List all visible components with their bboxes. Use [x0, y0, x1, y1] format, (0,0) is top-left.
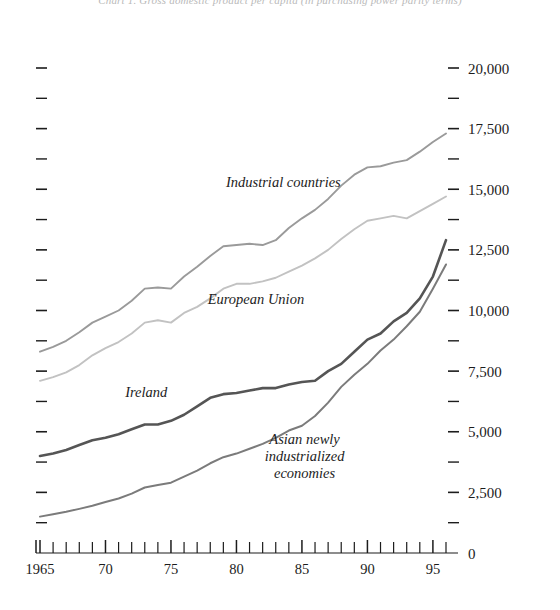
right-axis-tick-label: 15,000: [468, 182, 509, 198]
right-axis-tick-labels: 2,5005,0007,50010,00012,50015,00017,5002…: [468, 61, 509, 501]
chart-canvas: 2,5005,0007,50010,00012,50015,00017,5002…: [0, 0, 560, 610]
series-line-0: [40, 133, 446, 351]
x-axis-tick-label: 1965: [26, 561, 55, 577]
series-line-1: [40, 197, 446, 381]
series-label-2: Ireland: [124, 384, 168, 400]
right-axis-tick-label: 10,000: [468, 303, 509, 319]
right-axis-tick-label: 20,000: [468, 61, 509, 77]
right-axis-tick-label: 5,000: [468, 424, 502, 440]
series-label-3: industrialized: [265, 448, 346, 464]
zero-axis-label: 0: [468, 546, 476, 562]
series-line-2: [40, 240, 446, 456]
x-axis-tick-label: 85: [295, 561, 310, 577]
bottom-axis-tick-labels: 1965707580859095: [26, 561, 441, 577]
x-axis-tick-label: 80: [229, 561, 244, 577]
x-axis-tick-label: 75: [164, 561, 179, 577]
x-axis-tick-label: 90: [360, 561, 375, 577]
right-axis-tick-label: 12,500: [468, 242, 509, 258]
chart-root: Chart 1. Gross domestic product per capi…: [0, 0, 560, 610]
series-label-3: Asian newly: [268, 431, 340, 447]
right-axis-tick-label: 17,500: [468, 121, 509, 137]
right-axis-tick-label: 2,500: [468, 485, 502, 501]
right-axis-tick-label: 7,500: [468, 364, 502, 380]
zero-tick-label: 0: [468, 546, 476, 562]
series-label-1: European Union: [207, 291, 305, 307]
x-axis-tick-label: 70: [98, 561, 113, 577]
series-lines: [40, 133, 446, 516]
series-inline-labels: Industrial countriesEuropean UnionIrelan…: [124, 174, 345, 481]
x-axis-tick-label: 95: [426, 561, 441, 577]
bottom-axis: [36, 540, 458, 553]
right-axis-ticks: [448, 68, 459, 523]
series-label-3: economies: [274, 465, 336, 481]
series-label-0: Industrial countries: [225, 174, 341, 190]
